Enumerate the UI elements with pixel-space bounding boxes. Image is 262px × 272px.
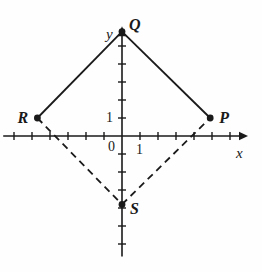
coordinate-plane-svg bbox=[0, 0, 262, 272]
point-label-P: P bbox=[219, 110, 229, 126]
x-axis-arrowhead bbox=[239, 132, 248, 140]
point-label-R: R bbox=[17, 110, 28, 126]
point-label-S: S bbox=[130, 201, 139, 217]
edge-Q-P bbox=[122, 32, 210, 118]
vertex-dot-P bbox=[207, 115, 214, 122]
point-label-Q: Q bbox=[129, 17, 141, 33]
y-axis-label: y bbox=[106, 27, 113, 42]
figure-canvas: x y 0 1 1 Q P R S bbox=[0, 0, 262, 272]
origin-label: 0 bbox=[108, 140, 115, 154]
vertex-dot-Q bbox=[119, 28, 126, 35]
vertex-dot-R bbox=[34, 115, 41, 122]
vertex-dot-S bbox=[119, 201, 126, 208]
x-unit-label: 1 bbox=[136, 143, 143, 157]
edge-R-Q bbox=[37, 32, 122, 118]
x-axis-label: x bbox=[236, 146, 243, 161]
axes-group bbox=[3, 26, 248, 256]
edge-R-S bbox=[37, 118, 122, 204]
edge-S-P bbox=[122, 118, 210, 204]
y-unit-label: 1 bbox=[106, 111, 113, 125]
